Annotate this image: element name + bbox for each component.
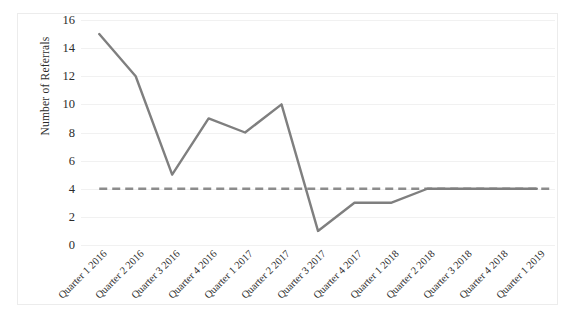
y-tick-label: 14 bbox=[49, 42, 75, 55]
x-axis-tick-labels: Quarter 1 2016Quarter 2 2016Quarter 3 20… bbox=[81, 246, 555, 324]
plot-area bbox=[81, 20, 555, 245]
y-tick-label: 6 bbox=[49, 155, 75, 168]
y-axis-tick-labels: 0246810121416 bbox=[45, 20, 75, 245]
y-tick-label: 0 bbox=[49, 239, 75, 252]
line-series-svg bbox=[81, 20, 555, 245]
y-tick-label: 4 bbox=[49, 183, 75, 196]
y-tick-label: 2 bbox=[49, 211, 75, 224]
y-tick-label: 16 bbox=[49, 14, 75, 27]
referrals-line bbox=[99, 34, 537, 231]
y-tick-label: 10 bbox=[49, 98, 75, 111]
y-tick-label: 12 bbox=[49, 70, 75, 83]
chart-figure: Number of Referrals 0246810121416 Quarte… bbox=[0, 0, 574, 324]
y-tick-label: 8 bbox=[49, 127, 75, 140]
